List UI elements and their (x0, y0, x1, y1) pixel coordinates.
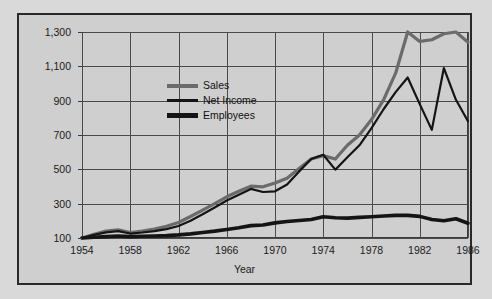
x-axis-tick-label: 1962 (167, 245, 190, 256)
legend-item-sales: Sales (167, 78, 257, 93)
legend-swatch-employees-icon (167, 113, 198, 118)
x-axis-tick-label: 1970 (263, 245, 286, 256)
chart-page: 1003005007009001,1001,300 19541958196219… (0, 0, 492, 299)
y-axis-tick-label: 1,300 (45, 27, 71, 38)
x-axis-tick-label: 1966 (215, 245, 238, 256)
chart-panel: 1003005007009001,1001,300 19541958196219… (17, 13, 472, 285)
x-axis-title: Year (19, 264, 470, 275)
series-line-employees (82, 215, 468, 238)
y-axis-tick-mark (78, 101, 82, 102)
legend-label-net-income: Net Income (203, 95, 257, 106)
legend-item-net-income: Net Income (167, 93, 257, 108)
y-axis-tick-label: 100 (53, 233, 71, 244)
x-axis-tick-label: 1986 (456, 245, 479, 256)
chart-legend: Sales Net Income Employees (167, 78, 257, 123)
y-axis-tick-mark (78, 204, 82, 205)
x-axis-tick-label: 1982 (408, 245, 431, 256)
y-axis-tick-mark (78, 66, 82, 67)
legend-label-employees: Employees (203, 110, 255, 121)
y-axis-tick-mark (78, 238, 82, 239)
y-axis-tick-label: 900 (53, 96, 71, 107)
y-axis-tick-label: 300 (53, 199, 71, 210)
legend-swatch-net-income-icon (167, 99, 198, 102)
series-line-net-income (82, 68, 468, 238)
y-axis-tick-mark (78, 32, 82, 33)
x-axis-tick-label: 1978 (360, 245, 383, 256)
y-axis-tick-label: 500 (53, 164, 71, 175)
x-axis-tick-label: 1954 (70, 245, 93, 256)
y-axis-tick-label: 700 (53, 130, 71, 141)
x-axis-tick-label: 1958 (119, 245, 142, 256)
y-axis-tick-mark (78, 169, 82, 170)
plot-wrapper (82, 32, 468, 238)
legend-label-sales: Sales (203, 80, 229, 91)
gridline-vertical (468, 32, 469, 238)
x-axis-tick-label: 1974 (312, 245, 335, 256)
y-axis-tick-mark (78, 135, 82, 136)
series-line-sales (82, 32, 468, 238)
y-axis-tick-label: 1,100 (45, 61, 71, 72)
series-lines (82, 32, 468, 238)
legend-item-employees: Employees (167, 108, 257, 123)
legend-swatch-sales-icon (167, 84, 198, 88)
